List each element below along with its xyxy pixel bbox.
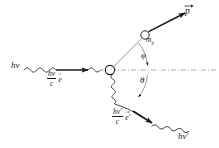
electron-momentum-arrow xyxy=(149,13,185,32)
scattered-momentum-fraction: hν′ c xyxy=(112,108,123,125)
compton-scattering-figure: hν hν c e p me φ θ hν′ c xyxy=(0,0,219,148)
figure-canvas xyxy=(0,0,219,148)
scattered-momentum-label: hν′ c e′ xyxy=(112,108,130,125)
phi-angle-label: φ xyxy=(141,51,146,60)
scattered-unit-vector: e′ xyxy=(125,112,130,121)
electron-momentum-label: p xyxy=(185,7,190,17)
incident-momentum-denominator: c xyxy=(49,79,54,87)
theta-angle-label: θ xyxy=(140,76,144,85)
scattered-momentum-arrow xyxy=(133,111,152,123)
incident-momentum-fraction: hν c xyxy=(47,70,56,87)
incident-momentum-numerator: hν xyxy=(47,70,56,79)
electron-mass-subscript: e xyxy=(151,40,153,46)
incident-unit-vector: e xyxy=(59,74,62,83)
incident-unit-vector-symbol: e xyxy=(59,75,62,84)
scattered-unit-vector-symbol: e′ xyxy=(125,113,130,122)
incident-momentum-label: hν c e xyxy=(47,70,62,87)
scattered-momentum-denominator: c xyxy=(115,117,120,125)
scattering-vertex xyxy=(105,65,114,74)
scattered-momentum-numerator: hν′ xyxy=(112,108,123,117)
electron-mass-label: me xyxy=(146,36,154,46)
recoil-electron-line xyxy=(114,39,142,67)
momentum-vector-arrow-icon xyxy=(184,4,194,8)
scattered-photon-wave xyxy=(111,74,189,135)
incident-photon-label: hν xyxy=(11,61,20,70)
scattered-photon-label: hν′ xyxy=(178,132,188,141)
